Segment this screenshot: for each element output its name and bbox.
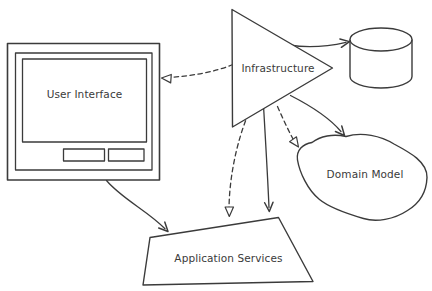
edge-infrastructure-to-application-services-dashed [225,114,248,217]
application-services-label: Application Services [174,252,282,264]
domain-model-label: Domain Model [327,168,404,180]
edge-infrastructure-to-user-interface [161,65,233,83]
user-interface-label: User Interface [47,88,123,100]
architecture-diagram: User Interface Infrastructure Domain Mod… [0,0,432,291]
edge-line [264,106,270,208]
database-node [350,28,412,88]
application-services-node: Application Services [143,218,313,286]
edge-line [289,42,346,46]
edge-infrastructure-to-domain-model-dashed [278,107,302,150]
edge-line [229,114,249,211]
monitor-outer-frame [8,44,160,181]
diagram-canvas: User Interface Infrastructure Domain Mod… [0,0,432,291]
open-arrowhead-icon [290,137,302,150]
edge-line [278,107,295,142]
edge-line [291,96,342,132]
edge-infrastructure-to-application-services-solid [264,106,274,212]
domain-model-node: Domain Model [297,134,427,220]
edge-infrastructure-to-database [289,37,350,47]
infrastructure-node: Infrastructure [232,10,333,128]
open-arrowhead-icon [161,74,171,83]
edge-user-interface-to-application-services [107,181,172,235]
cylinder-top [350,28,412,51]
edge-line [107,181,166,229]
edge-line [168,65,233,78]
open-arrowhead-icon [225,207,233,217]
edge-infrastructure-to-domain-model-solid [291,96,348,139]
user-interface-node: User Interface [8,44,160,181]
infrastructure-label: Infrastructure [241,62,314,74]
